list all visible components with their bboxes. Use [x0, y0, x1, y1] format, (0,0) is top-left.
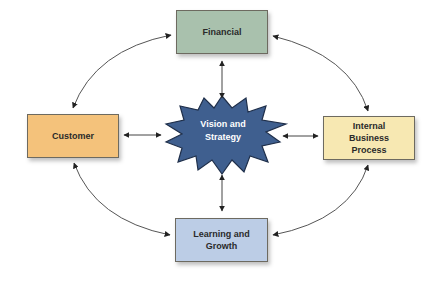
- learning-growth-box: Learning and Growth: [175, 218, 268, 262]
- learning-label-line2: Growth: [206, 240, 238, 252]
- arrow-customer-learning: [74, 163, 170, 235]
- arrow-financial-internal: [273, 36, 368, 111]
- arrow-financial-customer: [73, 35, 171, 108]
- vision-label-line2: Strategy: [180, 131, 266, 144]
- vision-label-line1: Vision and: [180, 118, 266, 131]
- vision-strategy-label: Vision and Strategy: [180, 118, 266, 144]
- learning-label-line1: Learning and: [193, 228, 250, 240]
- arrow-internal-learning: [273, 165, 368, 235]
- financial-box: Financial: [176, 10, 268, 54]
- customer-label: Customer: [52, 130, 94, 142]
- internal-business-process-box: Internal Business Process: [323, 116, 415, 160]
- customer-box: Customer: [27, 114, 119, 158]
- financial-label: Financial: [202, 26, 241, 38]
- internal-label-line2: Business: [349, 132, 389, 144]
- internal-label-line1: Internal: [353, 120, 386, 132]
- internal-label-line3: Process: [351, 144, 386, 156]
